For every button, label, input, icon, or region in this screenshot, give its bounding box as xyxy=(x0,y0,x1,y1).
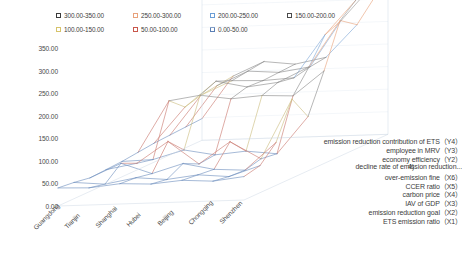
truncated-label-fragment: 4) xyxy=(408,163,414,170)
x-axis-category-label: Hubei xyxy=(125,211,142,228)
x-axis-category-label: Beijing xyxy=(156,208,174,226)
series-axis-label: economy efficiency（Y2） xyxy=(382,154,462,164)
x-axis-category-label: Tianjin xyxy=(63,212,81,230)
x-axis-category-label: Shenzhen xyxy=(218,200,243,225)
series-axis-label: ETS emission ratio（X1） xyxy=(383,216,462,226)
series-axis-label: employee in MRV（Y3） xyxy=(386,145,462,155)
series-axis-label: emission reduction contribution of ETS（Y… xyxy=(324,136,462,146)
x-axis-category-label: Chongqing xyxy=(187,199,214,226)
chart-container: 300.00-350.00 250.00-300.00 200.00-250.0… xyxy=(0,0,462,275)
series-axis-label: over-emission fine（X6） xyxy=(385,172,462,182)
series-axis-label: CCER ratio（X5） xyxy=(405,181,462,191)
series-axis-label: carbon price（X4） xyxy=(403,189,462,199)
series-axis-label: emission reduction goal（X2） xyxy=(369,207,462,217)
x-axis-category-label: Guangdong xyxy=(32,202,61,231)
x-axis-category-label: Shanghai xyxy=(94,205,118,229)
series-axis-label: IAV of GDP（X3） xyxy=(405,198,462,208)
